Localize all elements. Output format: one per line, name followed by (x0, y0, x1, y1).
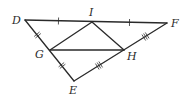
label-G: G (35, 48, 44, 61)
label-E: E (68, 84, 77, 97)
segment-DF (25, 20, 167, 23)
label-D: D (11, 14, 21, 27)
label-H: H (126, 50, 137, 63)
label-F: F (170, 17, 179, 30)
label-I: I (88, 6, 94, 19)
segments (25, 20, 167, 81)
triangle-diagram: D F E I G H (0, 0, 188, 98)
segment-GI (50, 22, 92, 50)
segment-EF (74, 23, 167, 81)
segment-IH (92, 22, 124, 50)
